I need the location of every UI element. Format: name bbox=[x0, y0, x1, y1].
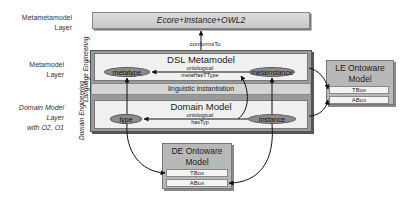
connector-layer bbox=[0, 0, 416, 201]
metainstance-to-le-tbox-arrow bbox=[309, 68, 328, 89]
type-to-de-tbox-arrow bbox=[127, 124, 165, 173]
instance-to-de-abox-arrow bbox=[229, 124, 272, 183]
domain-to-le-abox-arrow bbox=[309, 100, 328, 116]
linguistic-instance-arrow bbox=[238, 76, 247, 119]
